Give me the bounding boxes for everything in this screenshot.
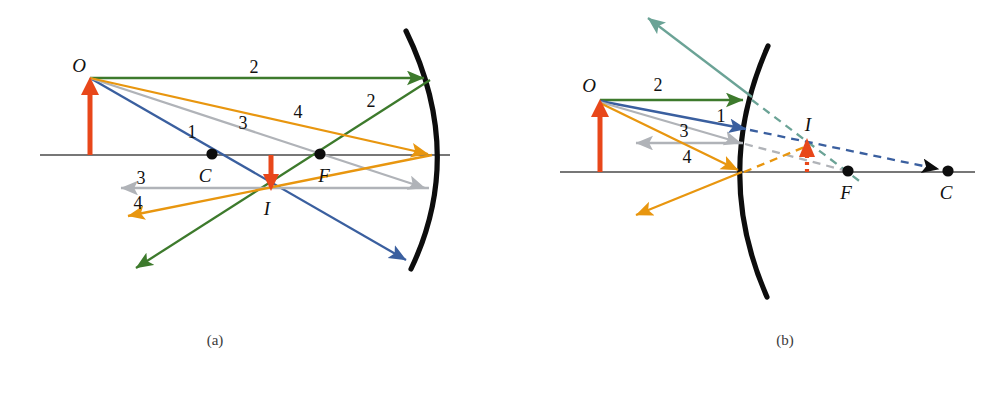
label-point-O-b: O (582, 75, 596, 96)
ray-1-virtual-extension-b (750, 130, 938, 169)
point-C-b (942, 165, 953, 176)
label-point-I-b: I (804, 114, 813, 135)
panel-b: O I F C 2 1 3 4 (b) (560, 18, 975, 349)
label-point-F-b: F (839, 182, 852, 203)
figure-root: O C F I 2 2 1 3 4 3 4 (a) (0, 0, 990, 399)
ray-label-3-lower-a: 3 (137, 168, 146, 188)
label-point-I-a: I (263, 198, 272, 219)
ray-label-1-a: 1 (188, 122, 197, 142)
ray-4-virtual-extension-b (744, 146, 807, 172)
ray-label-2-top-a: 2 (250, 57, 259, 77)
ray-label-4-upper-a: 4 (294, 102, 303, 122)
ray-diagram-canvas: O C F I 2 2 1 3 4 3 4 (a) (0, 0, 990, 399)
caption-panel-a: (a) (207, 332, 224, 349)
ray-4-reflected-a (128, 155, 432, 216)
ray-label-3-b: 3 (680, 121, 689, 141)
caption-panel-b: (b) (776, 332, 794, 349)
object-arrow-b (591, 99, 609, 172)
ray-label-3-upper-a: 3 (239, 113, 248, 133)
label-point-F-a: F (317, 165, 330, 186)
ray-4-reflected-b (636, 172, 742, 215)
ray-label-1-b: 1 (717, 106, 726, 126)
point-C-a (206, 148, 217, 159)
ray-label-4-lower-a: 4 (134, 193, 143, 213)
point-F-a (314, 148, 325, 159)
point-F-b (842, 165, 853, 176)
panel-a: O C F I 2 2 1 3 4 3 4 (a) (40, 31, 450, 349)
object-arrow-a (81, 77, 99, 155)
ray-2-reflected-b (648, 18, 752, 97)
ray-label-4-b: 4 (683, 147, 692, 167)
label-point-C-b: C (940, 182, 953, 203)
ray-label-2-b: 2 (654, 75, 663, 95)
ray-4-incident-a (90, 78, 428, 154)
ray-3-virtual-extension-b (745, 144, 847, 171)
label-point-O-a: O (72, 55, 86, 76)
ray-label-2-right-a: 2 (367, 91, 376, 111)
label-point-C-a: C (199, 165, 212, 186)
